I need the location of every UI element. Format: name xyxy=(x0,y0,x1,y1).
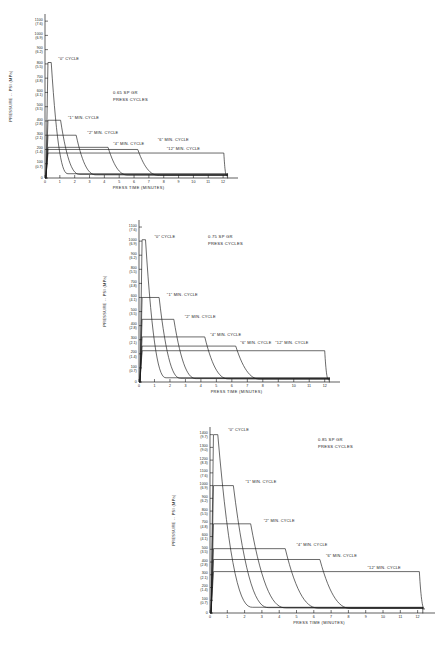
x-axis-title: PRESS TIME (MINUTES) xyxy=(293,620,345,625)
pressure-curve xyxy=(46,62,228,178)
pressure-curve xyxy=(211,549,423,613)
x-tick-label: 2 xyxy=(244,615,246,619)
x-tick-label: 7 xyxy=(148,180,150,184)
x-tick-label: 3 xyxy=(88,180,90,184)
y-axis-title: PRESSURE -- PSI (MPa) xyxy=(171,494,176,546)
x-tick-label: 5 xyxy=(295,615,297,619)
chart-canvas: 1100(7.6)1000(6.9)900(6.2)800(5.5)700(4.… xyxy=(92,210,352,415)
y-tick-label-mpa: (6.9) xyxy=(200,486,208,490)
x-tick-label: 9 xyxy=(277,384,279,388)
y-tick-label-mpa: (5.5) xyxy=(200,512,208,516)
y-tick-label: 0 xyxy=(135,380,137,384)
curves-group xyxy=(140,240,329,382)
y-tick-label-mpa: (4.8) xyxy=(200,525,208,529)
y-tick-label-mpa: (7.6) xyxy=(200,474,208,478)
y-tick-label-mpa: (2.8) xyxy=(35,122,43,126)
x-tick-label: 10 xyxy=(292,384,296,388)
x-tick-label: 11 xyxy=(398,615,402,619)
y-axis-title: PRESSURE -- PSI (MPa) xyxy=(102,275,107,327)
y-tick-label-mpa: (3.5) xyxy=(35,107,43,111)
x-tick-label: 0 xyxy=(209,615,211,619)
y-tick-label-mpa: (7.6) xyxy=(129,228,137,232)
x-tick-label: 12 xyxy=(323,384,327,388)
x-tick-label: 2 xyxy=(74,180,76,184)
x-tick-label: 4 xyxy=(200,384,202,388)
pressure-curve xyxy=(211,572,425,613)
chart-subtitle: PRESS CYCLES xyxy=(318,444,353,449)
y-tick-label-mpa: (5.5) xyxy=(129,270,137,274)
y-tick-label-mpa: (1.4) xyxy=(129,355,137,359)
y-tick-label-mpa: (2.1) xyxy=(129,341,137,345)
y-tick-label-mpa: (4.1) xyxy=(200,537,208,541)
axes-group xyxy=(45,14,238,178)
curve-label: "12" MIN. CYCLE xyxy=(275,340,309,345)
curve-annotations: "0" CYCLE"1" MIN. CYCLE"2" MIN. CYCLE"4"… xyxy=(58,56,200,152)
y-tick-label-mpa: (9.0) xyxy=(200,448,208,452)
chart-0-85-sp-gr: 1400(9.7)1300(9.0)1200(8.3)1100(7.6)1000… xyxy=(158,415,446,645)
y-tick-label-mpa: (4.8) xyxy=(35,79,43,83)
y-tick-label: 0 xyxy=(41,176,43,180)
curve-label: "6" MIN. CYCLE xyxy=(240,340,271,345)
curve-label: "2" MIN. CYCLE xyxy=(185,314,216,319)
chart-canvas: 1100(7.6)1000(6.9)900(6.2)800(5.5)700(4.… xyxy=(0,0,250,210)
x-tick-label: 1 xyxy=(59,180,61,184)
x-tick-label: 10 xyxy=(381,615,385,619)
y-tick-label-mpa: (2.8) xyxy=(129,326,137,330)
y-tick-label-mpa: (4.1) xyxy=(35,93,43,97)
curves-group xyxy=(46,62,228,178)
chart-0-65-sp-gr: 1100(7.6)1000(6.9)900(6.2)800(5.5)700(4.… xyxy=(0,0,250,210)
chart-title: 0.75 SP GR xyxy=(208,234,233,239)
y-tick-label-mpa: (4.8) xyxy=(129,284,137,288)
x-tick-label: 5 xyxy=(215,384,217,388)
x-tick-label: 0 xyxy=(138,384,140,388)
x-tick-label: 1 xyxy=(153,384,155,388)
y-tick-label-mpa: (2.1) xyxy=(35,136,43,140)
curve-label: "1" MIN. CYCLE xyxy=(245,479,276,484)
y-axis-title: PRESSURE -- PSI (MPa) xyxy=(8,70,13,122)
curve-label: "12" MIN. CYCLE xyxy=(367,565,401,570)
y-tick-label-mpa: (0.7) xyxy=(200,601,208,605)
y-tick-label-mpa: (2.8) xyxy=(200,563,208,567)
x-tick-label: 3 xyxy=(184,384,186,388)
x-axis-title: PRESS TIME (MINUTES) xyxy=(211,389,263,394)
x-tick-label: 0 xyxy=(44,180,46,184)
chart-0-75-sp-gr: 1100(7.6)1000(6.9)900(6.2)800(5.5)700(4.… xyxy=(92,210,352,415)
x-tick-label: 7 xyxy=(246,384,248,388)
x-tick-label: 8 xyxy=(347,615,349,619)
chart-subtitle: PRESS CYCLES xyxy=(113,97,148,102)
curve-label: "1" MIN. CYCLE xyxy=(68,115,99,120)
chart-subtitle: PRESS CYCLES xyxy=(208,241,243,246)
x-axis-ticks: 0123456789101112 xyxy=(138,379,327,388)
curve-label: "6" MIN. CYCLE xyxy=(326,553,357,558)
curves-group xyxy=(211,435,425,613)
y-tick-label-mpa: (6.2) xyxy=(200,499,208,503)
y-tick-label-mpa: (0.7) xyxy=(35,165,43,169)
curve-label: "0" CYCLE xyxy=(228,427,249,432)
curve-label: "4" MIN. CYCLE xyxy=(113,141,144,146)
curve-label: "12" MIN. CYCLE xyxy=(167,146,201,151)
y-tick-label-mpa: (8.3) xyxy=(200,461,208,465)
curve-annotations: "0" CYCLE"1" MIN. CYCLE"2" MIN. CYCLE"4"… xyxy=(228,427,401,570)
curve-label: "1" MIN. CYCLE xyxy=(167,292,198,297)
x-tick-label: 9 xyxy=(178,180,180,184)
x-tick-label: 8 xyxy=(163,180,165,184)
pressure-curve xyxy=(46,120,228,178)
curve-annotations: "0" CYCLE"1" MIN. CYCLE"2" MIN. CYCLE"4"… xyxy=(154,234,308,345)
x-tick-label: 11 xyxy=(307,384,311,388)
y-tick-label-mpa: (6.9) xyxy=(35,36,43,40)
y-axis-ticks: 1400(9.7)1300(9.0)1200(8.3)1100(7.6)1000… xyxy=(200,431,213,615)
x-tick-label: 2 xyxy=(169,384,171,388)
x-tick-label: 10 xyxy=(191,180,195,184)
y-tick-label-mpa: (1.4) xyxy=(200,588,208,592)
y-tick-label-mpa: (3.5) xyxy=(129,312,137,316)
x-tick-label: 3 xyxy=(261,615,263,619)
x-tick-label: 9 xyxy=(365,615,367,619)
curve-label: "2" MIN. CYCLE xyxy=(264,518,295,523)
chart-title: 0.65 SP GR xyxy=(113,90,138,95)
x-tick-label: 12 xyxy=(221,180,225,184)
x-axis-ticks: 0123456789101112 xyxy=(44,175,225,184)
x-tick-label: 4 xyxy=(103,180,105,184)
x-tick-label: 1 xyxy=(226,615,228,619)
chart-title: 0.85 SP GR xyxy=(318,437,343,442)
y-tick-label-mpa: (1.4) xyxy=(35,150,43,154)
